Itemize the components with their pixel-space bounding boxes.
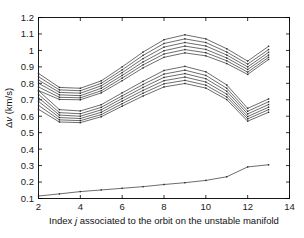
data-point — [205, 75, 206, 76]
data-point — [226, 60, 227, 61]
data-point — [247, 71, 248, 72]
data-point — [184, 42, 185, 43]
data-point — [59, 99, 60, 100]
data-point — [101, 116, 102, 117]
data-point — [80, 116, 81, 117]
data-point — [121, 92, 122, 93]
data-point — [268, 164, 269, 165]
data-point — [205, 87, 206, 88]
y-tick-label: 0.2 — [21, 176, 34, 187]
data-point — [184, 66, 185, 67]
data-point — [101, 104, 102, 105]
x-title-pre: Index — [49, 215, 75, 226]
series-path — [39, 80, 269, 120]
data-point — [268, 52, 269, 53]
data-point — [163, 39, 164, 40]
data-point — [247, 116, 248, 117]
y-tick-label: 0.6 — [21, 111, 34, 122]
data-point — [142, 90, 143, 91]
data-point — [247, 166, 248, 167]
data-point — [184, 69, 185, 70]
x-title-post: associated to the orbit on the unstable … — [77, 215, 279, 226]
data-point — [121, 77, 122, 78]
data-point — [142, 87, 143, 88]
data-point — [226, 96, 227, 97]
data-point — [247, 63, 248, 64]
data-point — [184, 45, 185, 46]
y-tick-label: 0.5 — [21, 127, 34, 138]
data-point — [101, 114, 102, 115]
x-tick-label: 14 — [284, 201, 295, 212]
y-axis-title: Δv (km/s) — [3, 88, 14, 128]
data-point — [184, 38, 185, 39]
data-point — [121, 80, 122, 81]
data-point — [205, 71, 206, 72]
data-point — [226, 48, 227, 49]
data-point — [59, 121, 60, 122]
data-point — [268, 106, 269, 107]
y-tick-label: 0.1 — [21, 193, 34, 204]
data-point — [142, 95, 143, 96]
data-point — [80, 99, 81, 100]
y-title-post: (km/s) — [3, 88, 14, 117]
data-point — [38, 109, 39, 110]
data-point — [184, 182, 185, 183]
y-tick-label: 0.7 — [21, 94, 34, 105]
data-point — [59, 92, 60, 93]
data-point — [80, 191, 81, 192]
plot-frame — [39, 18, 290, 199]
data-point — [101, 109, 102, 110]
data-point — [226, 51, 227, 52]
data-point — [80, 95, 81, 96]
data-point — [101, 92, 102, 93]
data-point — [142, 64, 143, 65]
data-point — [121, 100, 122, 101]
data-point — [38, 195, 39, 196]
data-point — [142, 58, 143, 59]
data-point — [205, 84, 206, 85]
data-point — [121, 72, 122, 73]
data-point — [101, 88, 102, 89]
data-point — [226, 88, 227, 89]
data-point — [38, 83, 39, 84]
series-baseline-curve — [38, 164, 269, 197]
y-tick-label: 1.1 — [21, 28, 34, 39]
data-point — [205, 49, 206, 50]
data-point — [184, 76, 185, 77]
data-point — [38, 97, 39, 98]
data-point — [205, 45, 206, 46]
data-point — [268, 112, 269, 113]
data-point — [38, 86, 39, 87]
x-tick-label: 10 — [201, 201, 212, 212]
data-point — [163, 70, 164, 71]
data-point — [59, 94, 60, 95]
data-point — [226, 63, 227, 64]
data-point — [59, 97, 60, 98]
y-tick-label: 0.4 — [21, 144, 34, 155]
data-point — [59, 114, 60, 115]
data-point — [80, 113, 81, 114]
data-point — [226, 93, 227, 94]
data-point — [59, 87, 60, 88]
data-point — [80, 118, 81, 119]
data-point — [80, 97, 81, 98]
x-tick-label: 8 — [161, 201, 166, 212]
data-point — [121, 75, 122, 76]
data-point — [247, 111, 248, 112]
data-point — [59, 112, 60, 113]
y-tick-label: 0.9 — [21, 61, 34, 72]
data-point — [101, 107, 102, 108]
data-point — [142, 81, 143, 82]
data-point — [205, 55, 206, 56]
data-point — [142, 92, 143, 93]
data-point — [268, 49, 269, 50]
data-point — [205, 180, 206, 181]
data-point — [80, 90, 81, 91]
data-point — [142, 51, 143, 52]
data-series-group — [38, 34, 269, 197]
data-point — [205, 78, 206, 79]
data-point — [121, 103, 122, 104]
data-point — [247, 118, 248, 119]
data-point — [268, 59, 269, 60]
data-point — [268, 98, 269, 99]
